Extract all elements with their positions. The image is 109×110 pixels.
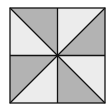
- pinwheel-diagram: [0, 0, 109, 110]
- center-point: [56, 54, 59, 57]
